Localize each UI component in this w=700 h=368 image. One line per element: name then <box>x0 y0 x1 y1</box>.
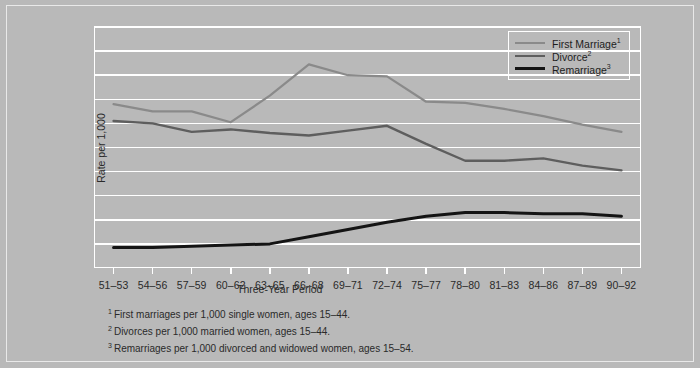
x-axis-tick <box>113 268 115 274</box>
x-axis-tick <box>582 268 584 274</box>
x-axis-tick-label: 51–53 <box>99 279 129 291</box>
legend-label: First Marriage1 <box>552 37 621 49</box>
x-axis-tick <box>230 268 232 274</box>
x-axis-tick <box>504 268 506 274</box>
legend-label: Divorce2 <box>552 50 592 62</box>
series-line-divorce <box>114 121 622 170</box>
x-axis-tick <box>543 268 545 274</box>
x-axis-tick <box>425 268 427 274</box>
x-axis-tick <box>269 268 271 274</box>
x-axis-tick-label: 90–92 <box>607 279 637 291</box>
x-axis-tick <box>621 268 623 274</box>
x-axis-tick-label: 72–74 <box>372 279 402 291</box>
x-axis-tick <box>191 268 193 274</box>
x-axis-tick-label: 75–77 <box>411 279 441 291</box>
legend-label: Remarriage3 <box>552 63 611 75</box>
chart-legend: First Marriage1Divorce2Remarriage3 <box>508 31 630 80</box>
x-axis-tick-label: 69–71 <box>333 279 363 291</box>
footnote: 3Remarriages per 1,000 divorced and wido… <box>108 339 414 356</box>
plot-wrapper: 020406080100120140160180200 Rate per 1,0… <box>94 27 641 268</box>
x-axis-tick-label: 57–59 <box>177 279 207 291</box>
x-axis-tick-label: 87–89 <box>568 279 598 291</box>
x-axis-tick <box>152 268 154 274</box>
chart-figure: 020406080100120140160180200 Rate per 1,0… <box>0 0 700 368</box>
legend-item-first-marriage: First Marriage1 <box>515 36 621 49</box>
x-axis-tick-label: 84–86 <box>528 279 558 291</box>
legend-swatch <box>515 55 545 57</box>
legend-swatch <box>515 42 545 44</box>
x-axis-tick <box>308 268 310 274</box>
x-axis-title: Three-Year Period <box>237 283 322 295</box>
legend-swatch <box>515 67 545 70</box>
footnote-list: 1First marriages per 1,000 single women,… <box>108 305 414 355</box>
legend-item-divorce: Divorce2 <box>515 49 621 62</box>
x-axis-tick-label: 54–56 <box>138 279 168 291</box>
footnote: 1First marriages per 1,000 single women,… <box>108 305 414 322</box>
legend-item-remarriage: Remarriage3 <box>515 62 621 75</box>
x-axis-tick <box>464 268 466 274</box>
footnote: 2Divorces per 1,000 married women, ages … <box>108 322 414 339</box>
x-axis-tick-label: 81–83 <box>489 279 519 291</box>
x-axis-tick-label: 78–80 <box>450 279 480 291</box>
x-axis-tick <box>347 268 349 274</box>
series-line-remarriage <box>114 213 622 248</box>
x-axis-tick <box>386 268 388 274</box>
